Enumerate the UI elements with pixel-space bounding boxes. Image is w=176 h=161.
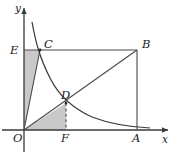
y-axis-label: y	[14, 2, 22, 14]
point-label-A: A	[131, 131, 140, 145]
point-label-D: D	[60, 88, 70, 102]
point-label-O: O	[13, 131, 23, 145]
point-label-C: C	[44, 37, 53, 51]
point-label-F: F	[60, 131, 70, 145]
x-axis-arrowhead	[162, 127, 168, 133]
point-label-B: B	[141, 37, 150, 51]
point-marker-C	[39, 49, 42, 52]
point-marker-D	[65, 102, 68, 105]
y-axis-arrowhead	[21, 8, 27, 14]
point-label-E: E	[9, 43, 19, 57]
geometry-figure: O E C B D F A x y	[0, 0, 176, 161]
x-axis-label: x	[162, 133, 168, 145]
segment-OB	[24, 50, 137, 130]
figure-canvas: O E C B D F A x y	[0, 0, 176, 161]
